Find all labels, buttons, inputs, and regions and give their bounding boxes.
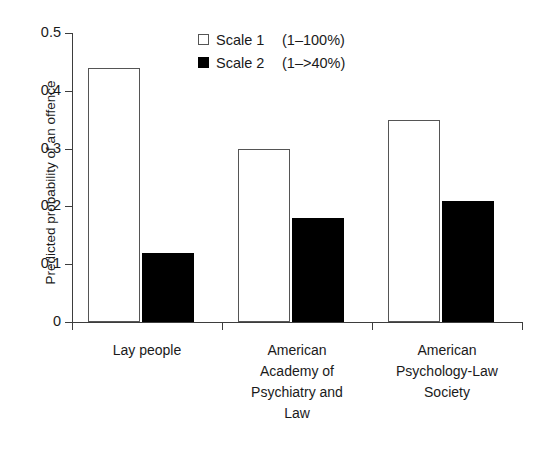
legend-swatch-filled-square-icon <box>198 57 209 68</box>
x-tick-mark <box>522 322 523 330</box>
legend-series-name: Scale 2 <box>216 55 282 71</box>
plot-area <box>72 33 522 322</box>
x-axis-line <box>72 322 522 323</box>
category-label: American Psychology-Law Society <box>372 340 522 403</box>
legend-series-range: (1–>40%) <box>282 55 345 71</box>
y-tick-label: 0.1 <box>19 256 61 271</box>
y-tick-label: 0.2 <box>19 198 61 213</box>
bar-scale-1 <box>238 149 290 322</box>
y-tick-label: 0.4 <box>19 83 61 98</box>
legend-series-name: Scale 1 <box>216 32 282 48</box>
bar-scale-2 <box>292 218 344 322</box>
legend-series-range: (1–100%) <box>282 32 345 48</box>
x-tick-mark <box>372 322 373 330</box>
legend-item: Scale 2(1–>40%) <box>198 51 345 74</box>
x-tick-mark <box>222 322 223 330</box>
bar-scale-2 <box>442 201 494 322</box>
y-tick-mark <box>65 264 72 265</box>
y-tick-mark <box>65 206 72 207</box>
bar-scale-1 <box>388 120 440 322</box>
y-tick-mark <box>65 322 72 323</box>
legend-item: Scale 1(1–100%) <box>198 28 345 51</box>
y-tick-mark <box>65 33 72 34</box>
category-label: Lay people <box>72 340 222 361</box>
bar-chart: Predicted probability of an offence 00.1… <box>0 0 546 455</box>
y-tick-label: 0.5 <box>19 25 61 40</box>
x-tick-mark <box>72 322 73 330</box>
bar-scale-1 <box>88 68 140 322</box>
y-tick-mark <box>65 149 72 150</box>
y-tick-label: 0 <box>19 314 61 329</box>
y-tick-label: 0.3 <box>19 141 61 156</box>
category-label: American Academy of Psychiatry and Law <box>222 340 372 424</box>
y-axis-title: Predicted probability of an offence <box>43 33 58 333</box>
chart-legend: Scale 1(1–100%)Scale 2(1–>40%) <box>198 28 345 74</box>
legend-swatch-open-square-icon <box>198 34 209 45</box>
bar-scale-2 <box>142 253 194 322</box>
y-tick-mark <box>65 91 72 92</box>
